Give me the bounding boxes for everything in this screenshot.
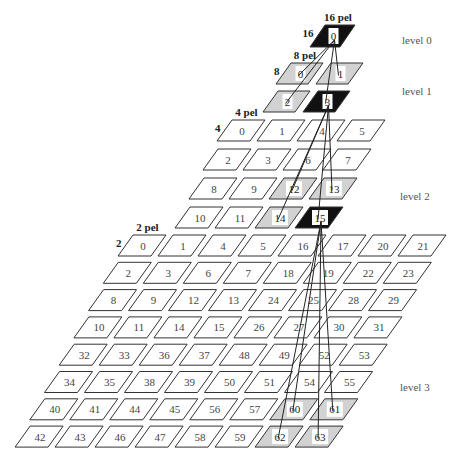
tile-label: 37: [199, 349, 211, 361]
tile-1-0: 0: [276, 63, 323, 84]
tile-3-8: 8: [89, 290, 137, 311]
tile-label: 41: [89, 403, 100, 415]
tile-label: 14: [173, 321, 185, 333]
tile-3-6: 6: [183, 262, 231, 283]
tile-label: 54: [304, 376, 316, 388]
quadtree-diagram: 0012301452367891213101114150145161720212…: [0, 0, 462, 470]
tile-label: 7: [345, 154, 351, 166]
tile-3-25: 25: [289, 290, 337, 311]
tile-label: 5: [359, 125, 365, 137]
tile-3-62: 62: [255, 426, 303, 447]
tile-3-31: 31: [354, 317, 402, 338]
tile-label: 11: [134, 321, 145, 333]
tile-label: 9: [251, 183, 257, 195]
tile-2-3: 3: [243, 149, 291, 170]
tile-2-8: 8: [189, 178, 237, 199]
tile-label: 15: [315, 212, 327, 224]
tile-label: 55: [344, 376, 356, 388]
tile-3-44: 44: [110, 399, 158, 420]
tile-3-21: 21: [398, 235, 446, 256]
tile-label: 32: [79, 349, 90, 361]
tile-3-15: 15: [194, 317, 242, 338]
block-size-label: 8 pel: [294, 49, 316, 61]
block-size-label: 2 pel: [136, 221, 158, 233]
tile-3-9: 9: [129, 290, 177, 311]
tile-3-13: 13: [209, 290, 257, 311]
tile-1-1: 1: [316, 63, 363, 84]
tile-3-36: 36: [139, 344, 187, 365]
tile-3-29: 29: [369, 290, 417, 311]
tile-label: 31: [373, 321, 384, 333]
tile-label: 51: [264, 376, 275, 388]
tile-label: 39: [184, 376, 196, 388]
block-size-label: 4 pel: [235, 106, 257, 118]
tile-3-23: 23: [383, 262, 431, 283]
level-name-label: level 1: [402, 85, 432, 97]
tile-3-18: 18: [263, 262, 311, 283]
tile-label: 56: [209, 403, 221, 415]
tile-label: 48: [239, 349, 251, 361]
tile-label: 53: [359, 349, 371, 361]
tile-label: 38: [144, 376, 156, 388]
tile-label: 4: [220, 240, 226, 252]
tile-3-45: 45: [150, 399, 198, 420]
tile-label: 13: [228, 294, 240, 306]
tile-label: 12: [188, 294, 199, 306]
tile-label: 34: [64, 376, 76, 388]
level-name-label: level 3: [400, 381, 430, 393]
block-size-label: 16 pel: [324, 11, 352, 23]
tile-label: 29: [388, 294, 400, 306]
tile-3-28: 28: [329, 290, 377, 311]
tile-grids: 0012301452367891213101114150145161720212…: [15, 25, 446, 447]
tile-3-10: 10: [74, 317, 122, 338]
tile-label: 42: [35, 431, 46, 443]
tile-3-39: 39: [165, 372, 213, 393]
tile-label: 50: [224, 376, 236, 388]
tile-3-24: 24: [249, 290, 297, 311]
tile-label: 49: [279, 349, 291, 361]
tile-label: 2: [126, 267, 132, 279]
tile-3-51: 51: [245, 372, 293, 393]
tile-2-0: 0: [217, 120, 265, 141]
tile-3-33: 33: [99, 344, 147, 365]
tile-label: 18: [283, 267, 295, 279]
tile-label: 11: [235, 212, 246, 224]
tile-label: 58: [195, 431, 207, 443]
tile-label: 28: [348, 294, 360, 306]
tile-3-2: 2: [103, 262, 151, 283]
tile-label: 35: [104, 376, 116, 388]
level-2-grid: 0145236789121310111415: [175, 120, 385, 228]
tile-3-56: 56: [190, 399, 238, 420]
tile-3-48: 48: [219, 344, 267, 365]
tile-label: 63: [315, 431, 327, 443]
tile-3-27: 27: [274, 317, 322, 338]
level-3-grid: 0145161720212367181922238912132425282910…: [15, 235, 446, 447]
tile-0-0: 0: [310, 25, 355, 47]
side-size-label: 4: [215, 122, 221, 134]
tile-label: 36: [159, 349, 171, 361]
tile-2-9: 9: [229, 178, 277, 199]
tile-label: 57: [249, 403, 261, 415]
tile-3-46: 46: [95, 426, 143, 447]
tile-3-57: 57: [230, 399, 278, 420]
tile-label: 21: [418, 240, 429, 252]
tile-label: 52: [319, 349, 330, 361]
tile-label: 8: [111, 294, 117, 306]
tile-label: 43: [75, 431, 87, 443]
tile-3-53: 53: [339, 344, 387, 365]
tile-2-5: 5: [337, 120, 385, 141]
tile-3-11: 11: [114, 317, 162, 338]
tile-3-17: 17: [318, 235, 366, 256]
tile-3-1: 1: [158, 235, 206, 256]
tile-3-47: 47: [135, 426, 183, 447]
tile-label: 3: [265, 154, 271, 166]
tile-3-26: 26: [234, 317, 282, 338]
tile-label: 5: [260, 240, 266, 252]
tile-2-1: 1: [257, 120, 305, 141]
tile-label: 60: [289, 403, 301, 415]
tile-3-3: 3: [143, 262, 191, 283]
side-size-label: 16: [303, 27, 315, 39]
tile-label: 33: [119, 349, 131, 361]
tile-label: 1: [180, 240, 186, 252]
tile-2-10: 10: [175, 207, 223, 228]
